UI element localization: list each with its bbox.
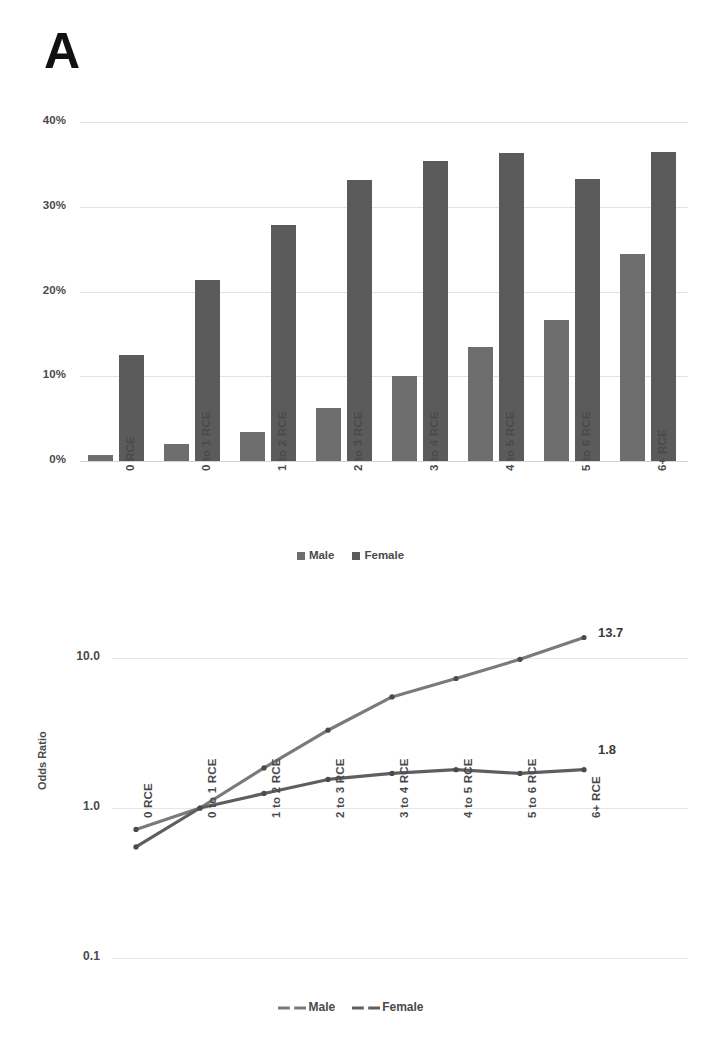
x-axis-tick-label: 3 to 4 RCE (398, 758, 410, 818)
legend-label: Male (308, 1000, 335, 1014)
x-axis-tick-label: 0 RCE (142, 783, 154, 818)
x-axis-tick-label: 6+ RCE (590, 776, 602, 818)
y-axis-tick-label: 0% (22, 453, 66, 465)
x-axis-tick-label: 6+ RCE (656, 429, 668, 471)
bar-male (392, 376, 417, 461)
bar-group (156, 122, 232, 461)
gridline (112, 658, 688, 659)
y-axis-tick-label: 20% (22, 284, 66, 296)
bar-male (240, 432, 265, 461)
legend-item-male: Male (297, 549, 335, 561)
x-axis-tick-label: 0 to 1 RCE (206, 758, 218, 818)
x-axis-tick-label: 2 to 3 RCE (334, 758, 346, 818)
gridline (112, 958, 688, 959)
panel-a-letter: A (44, 26, 80, 76)
x-axis-tick-label: 2 to 3 RCE (352, 411, 364, 471)
y-axis-tick-label: 10% (22, 368, 66, 380)
legend-swatch-icon (352, 552, 360, 560)
y-axis-tick-label: 30% (22, 199, 66, 211)
panel-a-bars (80, 122, 688, 461)
bar-male (164, 444, 189, 461)
y-axis-tick-label: 10.0 (52, 649, 100, 663)
bar-group (460, 122, 536, 461)
x-axis-tick-label: 1 to 2 RCE (276, 411, 288, 471)
legend-item-female: Female (351, 1000, 423, 1014)
bar-group (612, 122, 688, 461)
gridline (80, 461, 688, 462)
legend-line-marker-icon (351, 1002, 381, 1014)
legend-label: Female (364, 549, 404, 561)
panel-b-y-axis-title: Odds Ratio (36, 731, 48, 790)
panel-a-legend: MaleFemale (0, 549, 701, 561)
legend-item-male: Male (277, 1000, 335, 1014)
bar-male (544, 320, 569, 461)
end-value-label-female: 1.8 (598, 742, 616, 757)
x-axis-tick-label: 1 to 2 RCE (270, 758, 282, 818)
legend-item-female: Female (352, 549, 404, 561)
bar-group (384, 122, 460, 461)
end-value-label-male: 13.7 (598, 625, 623, 640)
bar-group (80, 122, 156, 461)
panel-a: A 40%30%20%10%0% 0 RCE0 to 1 RCE1 to 2 R… (0, 0, 701, 575)
bar-female (651, 152, 676, 461)
legend-label: Male (309, 549, 335, 561)
x-axis-tick-label: 0 to 1 RCE (200, 411, 212, 471)
x-axis-tick-label: 4 to 5 RCE (462, 758, 474, 818)
y-axis-tick-label: 40% (22, 114, 66, 126)
x-axis-tick-label: 5 to 6 RCE (526, 758, 538, 818)
legend-line-marker-icon (277, 1002, 307, 1014)
bar-male (88, 455, 113, 461)
x-axis-tick-label: 3 to 4 RCE (428, 411, 440, 471)
bar-male (316, 408, 341, 461)
bar-group (232, 122, 308, 461)
legend-label: Female (382, 1000, 423, 1014)
panel-b-legend: MaleFemale (0, 1000, 701, 1014)
bar-male (620, 254, 645, 461)
y-axis-tick-label: 1.0 (52, 799, 100, 813)
legend-swatch-icon (297, 552, 305, 560)
x-axis-tick-label: 5 to 6 RCE (580, 411, 592, 471)
y-axis-tick-label: 0.1 (52, 949, 100, 963)
figure-container: A 40%30%20%10%0% 0 RCE0 to 1 RCE1 to 2 R… (0, 0, 701, 1043)
bar-group (308, 122, 384, 461)
bar-group (536, 122, 612, 461)
x-axis-tick-label: 0 RCE (124, 436, 136, 471)
x-axis-tick-label: 4 to 5 RCE (504, 411, 516, 471)
bar-male (468, 347, 493, 461)
